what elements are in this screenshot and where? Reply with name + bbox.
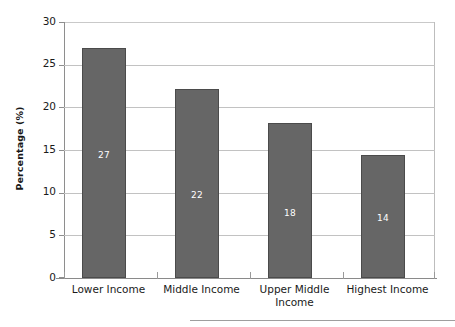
y-tick-label-30: 30 <box>30 16 56 27</box>
y-tick-label-10: 10 <box>30 186 56 197</box>
y-tick-mark-25 <box>59 65 64 66</box>
bar-middle-income[interactable]: 22 <box>175 89 219 278</box>
y-tick-label-5: 5 <box>30 229 56 240</box>
x-axis-line <box>56 278 437 279</box>
y-tick-mark-20 <box>59 107 64 108</box>
bar-value-highest-income: 14 <box>362 213 404 223</box>
x-tick-mark-1 <box>157 272 158 279</box>
bar-lower-income[interactable]: 27 <box>82 48 126 278</box>
bar-upper-middle-income[interactable]: 18 <box>268 123 312 278</box>
x-tick-mark-4 <box>434 272 435 279</box>
y-tick-mark-15 <box>59 150 64 151</box>
y-tick-mark-10 <box>59 193 64 194</box>
x-category-label-upper-middle-income-line2: Income <box>275 296 314 308</box>
y-tick-label-25: 25 <box>30 58 56 69</box>
y-tick-mark-30 <box>59 22 64 23</box>
y-tick-label-20: 20 <box>30 101 56 112</box>
plot-top-border <box>64 22 435 23</box>
bar-value-middle-income: 22 <box>176 190 218 200</box>
y-tick-label-0: 0 <box>30 272 56 283</box>
bar-highest-income[interactable]: 14 <box>361 155 405 278</box>
y-tick-label-15: 15 <box>30 144 56 155</box>
y-tick-mark-5 <box>59 235 64 236</box>
x-tick-mark-3 <box>343 272 344 279</box>
bar-value-upper-middle-income: 18 <box>269 208 311 218</box>
y-axis-title: Percentage (%) <box>14 89 25 209</box>
x-tick-mark-2 <box>250 272 251 279</box>
plot-area: 27 22 18 14 <box>64 22 435 278</box>
x-tick-mark-0 <box>64 272 65 279</box>
footer-divider <box>190 320 455 321</box>
bar-chart: Percentage (%) 30 25 20 15 10 5 0 <box>0 0 455 327</box>
bar-value-lower-income: 27 <box>83 150 125 160</box>
x-category-label-highest-income: Highest Income <box>318 283 455 296</box>
